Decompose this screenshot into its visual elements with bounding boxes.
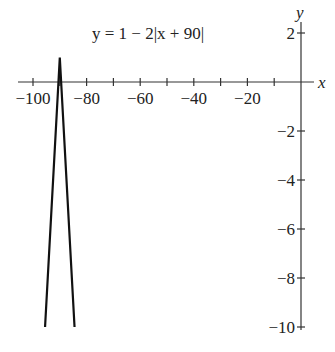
y-tick-label: −6 xyxy=(277,220,295,239)
x-tick-label: −40 xyxy=(181,89,208,108)
x-tick-label: −80 xyxy=(73,89,100,108)
y-tick-label: −10 xyxy=(268,318,295,337)
y-tick-label: −4 xyxy=(277,171,296,190)
chart: −100−80−60−40−202−2−4−6−8−10 x y y = 1 −… xyxy=(0,0,335,352)
y-axis-label: y xyxy=(294,3,304,22)
y-tick-label: −2 xyxy=(277,122,295,141)
x-tick-label: −100 xyxy=(15,89,50,108)
x-tick-label: −60 xyxy=(127,89,154,108)
x-tick-label: −20 xyxy=(234,89,261,108)
x-axis-label: x xyxy=(317,73,326,92)
equation-label: y = 1 − 2|x + 90| xyxy=(92,24,204,43)
axes xyxy=(18,22,314,330)
y-tick-label: 2 xyxy=(287,24,296,43)
y-tick-label: −8 xyxy=(277,269,295,288)
